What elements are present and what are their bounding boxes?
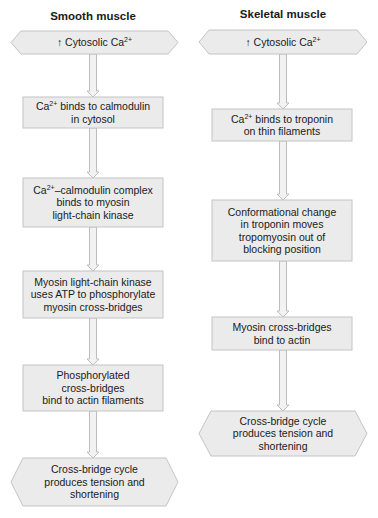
skeletal-step-4-label: Myosin cross-bridgesbind to actin (232, 321, 331, 346)
skeletal-step-5-text: Cross-bridge cycleproduces tension andsh… (211, 411, 355, 456)
smooth-arrow-4 (87, 318, 99, 365)
smooth-step-4-label: Myosin light-chain kinaseuses ATP to pho… (31, 276, 156, 314)
skeletal-step-2-label: Ca2+ binds to troponinon thin filaments (231, 113, 333, 138)
smooth-step-3-text: Ca2+–calmodulin complexbinds to myosinli… (23, 178, 163, 227)
skeletal-muscle-title: Skeletal muscle (188, 8, 378, 20)
smooth-step-6-label: Cross-bridge cycleproduces tension andsh… (44, 463, 144, 501)
skeletal-arrow-1 (277, 54, 289, 109)
skeletal-step-1-label: ↑ Cytosolic Ca2+ (245, 36, 320, 49)
skeletal-step-4-text: Myosin cross-bridgesbind to actin (212, 317, 352, 350)
skeletal-step-3-text: Conformational changein troponin movestr… (212, 200, 352, 261)
smooth-arrow-5 (87, 411, 99, 458)
smooth-arrow-1 (87, 54, 99, 97)
smooth-step-6-text: Cross-bridge cycleproduces tension andsh… (23, 458, 166, 506)
skeletal-step-5-label: Cross-bridge cycleproduces tension andsh… (233, 415, 333, 453)
smooth-arrow-3 (87, 227, 99, 271)
smooth-step-2-label: Ca2+ binds to calmodulinin cytosol (36, 100, 150, 125)
smooth-step-1-text: ↑ Cytosolic Ca2+ (21, 31, 168, 54)
smooth-step-4-text: Myosin light-chain kinaseuses ATP to pho… (23, 271, 163, 318)
smooth-step-5-label: Phosphorylatedcross-bridgesbind to actin… (42, 369, 144, 407)
skeletal-arrow-2 (277, 141, 289, 200)
skeletal-step-1-text: ↑ Cytosolic Ca2+ (209, 30, 357, 54)
skeletal-arrow-3 (277, 261, 289, 317)
skeletal-arrow-4 (277, 350, 289, 411)
smooth-step-2-text: Ca2+ binds to calmodulinin cytosol (23, 97, 163, 128)
smooth-arrow-2 (87, 128, 99, 178)
smooth-step-3-label: Ca2+–calmodulin complexbinds to myosinli… (33, 184, 152, 222)
skeletal-step-2-text: Ca2+ binds to troponinon thin filaments (212, 109, 352, 141)
skeletal-step-3-label: Conformational changein troponin movestr… (228, 206, 337, 256)
smooth-muscle-title: Smooth muscle (0, 10, 186, 22)
smooth-step-5-text: Phosphorylatedcross-bridgesbind to actin… (23, 365, 163, 411)
smooth-step-1-label: ↑ Cytosolic Ca2+ (57, 36, 132, 49)
